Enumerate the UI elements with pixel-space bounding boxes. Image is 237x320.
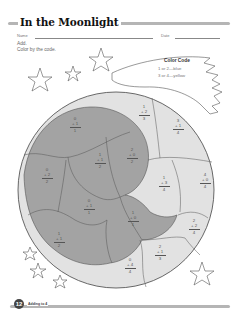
- problem-region[interactable]: 3+ 14: [170, 118, 186, 135]
- problem-region[interactable]: 1+ 12: [51, 231, 67, 248]
- problem-region[interactable]: 0+ 44: [122, 257, 138, 274]
- footer-topic-label: Adding to 4: [27, 302, 48, 306]
- problem-region[interactable]: 1+ 12: [92, 152, 108, 169]
- problem-region[interactable]: 2+ 02: [124, 147, 140, 164]
- problem-region[interactable]: 4+ 04: [197, 172, 213, 189]
- star-icon: [30, 263, 46, 278]
- star-icon: [23, 247, 37, 260]
- color-code-rule-yellow: 3 or 4—yellow: [158, 73, 185, 78]
- star-icon: [53, 275, 67, 288]
- problem-region[interactable]: 2+ 24: [186, 218, 202, 235]
- color-code-rule-blue: 1 or 2—blue: [158, 66, 181, 71]
- star-icon: [65, 66, 81, 81]
- problem-region[interactable]: 1+ 34: [156, 175, 172, 192]
- star-icon: [190, 262, 214, 285]
- star-icon: [28, 68, 52, 91]
- star-icon: [89, 48, 113, 71]
- problem-region[interactable]: 1+ 23: [136, 104, 152, 121]
- page-number-badge: 12: [14, 299, 24, 309]
- color-code-title: Color Code: [164, 58, 190, 63]
- problem-region[interactable]: 0+ 11: [81, 198, 97, 215]
- problem-region[interactable]: 1+ 01: [125, 210, 141, 227]
- moon-picture: [0, 0, 237, 320]
- problem-region[interactable]: 2+ 13: [152, 244, 168, 261]
- problem-region[interactable]: 0+ 11: [67, 116, 83, 133]
- problem-region[interactable]: 0+ 22: [39, 167, 55, 184]
